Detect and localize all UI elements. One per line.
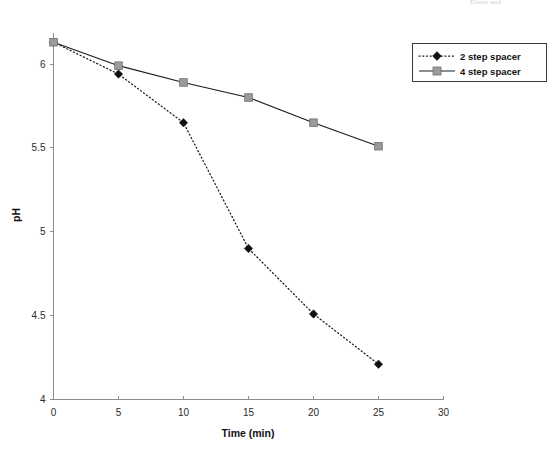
data-point-2-step-spacer-10 xyxy=(179,119,187,127)
series-layer xyxy=(49,38,382,368)
legend-marker-square-icon xyxy=(433,67,441,75)
legend-entry-4-step-spacer[interactable]: 4 step spacer xyxy=(419,66,521,77)
x-tick-label-0: 0 xyxy=(51,407,57,418)
series-line-4-step-spacer xyxy=(54,42,379,146)
x-axis-ticks: 051015202530 xyxy=(51,396,450,418)
x-tick-label-25: 25 xyxy=(373,407,385,418)
ph-vs-time-line-chart: 44.555.56 051015202530 Time (min) pH 2 s… xyxy=(0,0,558,451)
x-tick-label-30: 30 xyxy=(438,407,450,418)
y-tick-label-5: 5 xyxy=(40,226,46,237)
data-point-4-step-spacer-25 xyxy=(375,142,383,150)
data-point-4-step-spacer-15 xyxy=(245,94,253,102)
y-tick-label-4.5: 4.5 xyxy=(32,310,46,321)
data-point-2-step-spacer-25 xyxy=(374,360,382,368)
data-point-2-step-spacer-5 xyxy=(114,70,122,78)
legend-label-1: 4 step spacer xyxy=(460,66,521,77)
x-tick-label-15: 15 xyxy=(243,407,255,418)
chart-container: Dates and 44.555.56 051015202530 Time (m… xyxy=(0,0,558,451)
chart-legend: 2 step spacer 4 step spacer xyxy=(413,44,547,82)
series-2-step-spacer xyxy=(49,38,382,368)
x-tick-label-5: 5 xyxy=(116,407,122,418)
y-axis-ticks: 44.555.56 xyxy=(32,59,54,406)
data-point-4-step-spacer-20 xyxy=(310,119,318,127)
y-tick-label-4: 4 xyxy=(40,394,46,405)
data-point-2-step-spacer-20 xyxy=(309,310,317,318)
x-axis-title: Time (min) xyxy=(222,427,275,439)
data-point-4-step-spacer-0 xyxy=(50,38,58,46)
x-tick-label-10: 10 xyxy=(178,407,190,418)
y-tick-label-6: 6 xyxy=(40,59,46,70)
y-axis-title: pH xyxy=(10,208,22,222)
y-tick-label-5.5: 5.5 xyxy=(32,142,46,153)
series-4-step-spacer xyxy=(50,38,383,150)
data-point-4-step-spacer-5 xyxy=(115,62,123,70)
data-point-4-step-spacer-10 xyxy=(180,79,188,87)
legend-label-0: 2 step spacer xyxy=(460,51,521,62)
x-tick-label-20: 20 xyxy=(308,407,320,418)
